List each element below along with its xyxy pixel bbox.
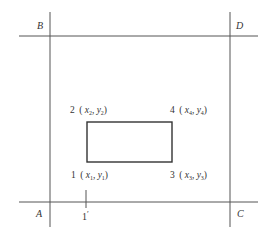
corner-label-A: A bbox=[35, 208, 43, 219]
tick-label-prime: ′ bbox=[87, 210, 89, 219]
point-label-2: 2 ( x2, y2) bbox=[70, 105, 107, 116]
paren-open: ( bbox=[80, 170, 83, 181]
point-label-3: 3 ( x3, y3) bbox=[170, 170, 207, 181]
point-label-1: 1 ( x1, y1) bbox=[71, 170, 108, 181]
comma: , bbox=[93, 170, 95, 180]
comma: , bbox=[192, 105, 194, 115]
building-rectangle bbox=[87, 122, 172, 162]
diagram-canvas: B D A C 2 ( x2, y2) 4 ( x4, y4) 1 ( x1, … bbox=[0, 0, 276, 241]
paren-close: ) bbox=[105, 170, 108, 181]
point-1-id: 1 bbox=[71, 170, 76, 180]
point-2-id: 2 bbox=[70, 105, 75, 115]
paren-open: ( bbox=[79, 105, 82, 116]
corner-label-B: B bbox=[37, 20, 43, 31]
paren-open: ( bbox=[179, 170, 182, 181]
paren-open: ( bbox=[179, 105, 182, 116]
corner-label-D: D bbox=[235, 20, 244, 31]
comma: , bbox=[92, 105, 94, 115]
corner-label-C: C bbox=[237, 208, 244, 219]
point-3-id: 3 bbox=[170, 170, 175, 180]
point-4-id: 4 bbox=[170, 105, 175, 115]
comma: , bbox=[192, 170, 194, 180]
paren-close: ) bbox=[204, 170, 207, 181]
tick-label-1-prime: 1′ bbox=[82, 210, 89, 222]
paren-close: ) bbox=[104, 105, 107, 116]
paren-close: ) bbox=[204, 105, 207, 116]
point-label-4: 4 ( x4, y4) bbox=[170, 105, 207, 116]
